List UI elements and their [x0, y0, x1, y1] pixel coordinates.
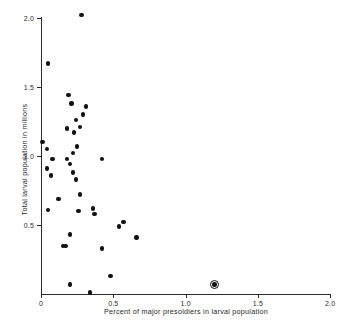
data-point [46, 61, 50, 65]
x-tick-mark [186, 294, 187, 298]
x-tick-label: 1.0 [174, 300, 198, 307]
x-tick-label: 2.0 [318, 300, 338, 307]
data-point [66, 93, 70, 97]
data-point [81, 112, 85, 116]
data-point [65, 126, 69, 130]
x-tick-mark [41, 294, 42, 298]
y-tick-mark [37, 156, 41, 157]
plot-data-area [0, 0, 338, 327]
x-tick-label: 0.5 [101, 300, 125, 307]
data-point [69, 101, 73, 105]
data-point [134, 235, 138, 239]
data-point-highlighted [212, 282, 216, 286]
x-tick-label: 0 [29, 300, 53, 307]
y-axis-line [41, 17, 42, 295]
scatter-plot-figure: 0.51.01.52.0 00.51.01.52.0 Percent of ma… [0, 0, 338, 327]
data-point [71, 170, 75, 174]
data-point [74, 118, 78, 122]
data-point [65, 157, 69, 161]
data-point [74, 177, 78, 181]
data-point [100, 157, 104, 161]
data-point [92, 212, 96, 216]
data-point [79, 13, 83, 17]
data-point [61, 244, 65, 248]
data-point [45, 166, 49, 170]
x-tick-mark [258, 294, 259, 298]
x-axis-title: Percent of major presoldiers in larval p… [41, 307, 331, 316]
y-tick-mark [37, 18, 41, 19]
x-tick-mark [330, 294, 331, 298]
data-point [49, 173, 53, 177]
data-point [108, 274, 112, 278]
data-point [75, 144, 79, 148]
data-point [91, 206, 95, 210]
data-point [78, 192, 82, 196]
y-axis-title: Total larval population in millions [20, 50, 29, 270]
x-tick-label: 1.5 [246, 300, 270, 307]
y-tick-mark [37, 87, 41, 88]
y-tick-label: 2.0 [12, 15, 34, 22]
data-point [63, 244, 67, 248]
data-point [100, 246, 104, 250]
data-point [68, 162, 72, 166]
data-point [50, 157, 54, 161]
data-point [45, 147, 49, 151]
data-point [68, 282, 72, 286]
data-point [78, 125, 82, 129]
data-point [76, 209, 80, 213]
data-point [68, 232, 72, 236]
data-point [84, 104, 88, 108]
data-point [117, 224, 121, 228]
x-tick-mark [113, 294, 114, 298]
data-point [121, 220, 125, 224]
data-point [72, 130, 76, 134]
data-point [46, 208, 50, 212]
data-point [71, 151, 75, 155]
data-point [56, 197, 60, 201]
y-tick-mark [37, 225, 41, 226]
